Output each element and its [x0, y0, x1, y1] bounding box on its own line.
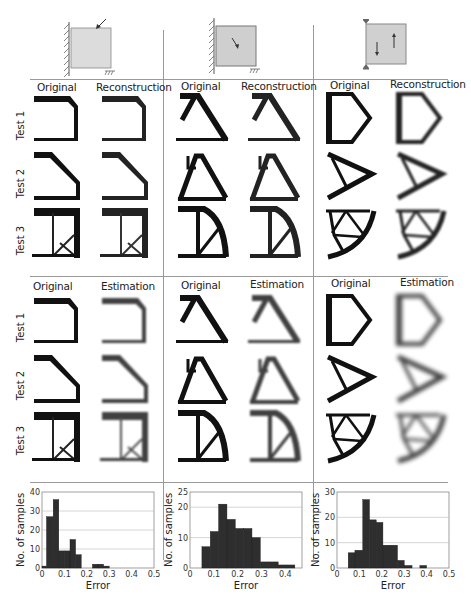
x-tick-label: 0.1	[353, 570, 366, 579]
reconstruction-topology-tile	[392, 90, 448, 146]
histogram-bar	[383, 545, 391, 568]
histogram-bar	[278, 565, 286, 568]
col-header: Reconstruction	[390, 78, 466, 90]
top-divider	[30, 79, 448, 80]
histogram-bar	[376, 522, 383, 568]
x-tick-label: 0.3	[103, 570, 116, 579]
reconstruction-topology-tile	[98, 90, 154, 146]
y-axis-label: No. of samples	[310, 493, 321, 567]
histogram-bar	[260, 562, 268, 568]
col-header: Estimation	[101, 280, 155, 292]
x-tick-label: 0	[39, 570, 44, 579]
histogram-bar	[244, 528, 252, 568]
x-tick-label: 0.4	[420, 570, 433, 579]
histogram-bar	[397, 560, 404, 568]
histogram-bar	[287, 565, 295, 568]
x-tick-label: 0.1	[207, 570, 220, 579]
histogram-1: 01020304000.10.20.30.40.5ErrorNo. of sam…	[0, 480, 160, 603]
estimation-topology-tile	[246, 409, 302, 465]
reconstruction-topology-tile	[98, 205, 154, 261]
estimation-topology-tile	[98, 351, 154, 407]
original-topology-tile	[174, 351, 230, 407]
row-label: Test 3	[15, 221, 26, 261]
y-tick-label: 10	[30, 545, 40, 554]
original-topology-tile	[30, 148, 86, 204]
row-label: Test 2	[15, 164, 26, 204]
original-topology-tile	[30, 409, 86, 465]
x-tick-label: 0.1	[58, 570, 71, 579]
histogram-3: 010203000.10.20.30.40.5ErrorNo. of sampl…	[310, 480, 471, 603]
reconstruction-topology-tile	[246, 148, 302, 204]
histogram-bar	[92, 564, 98, 568]
original-topology-tile	[322, 409, 378, 465]
original-topology-tile	[174, 205, 230, 261]
reconstruction-topology-tile	[98, 148, 154, 204]
original-topology-tile	[322, 205, 378, 261]
estimation-topology-tile	[392, 351, 448, 407]
row-label: Test 3	[15, 421, 26, 461]
estimation-topology-tile	[392, 409, 448, 465]
original-topology-tile	[30, 90, 86, 146]
original-topology-tile	[174, 409, 230, 465]
histogram-bar	[42, 566, 46, 568]
original-topology-tile	[30, 205, 86, 261]
histogram-bar	[227, 519, 235, 568]
x-axis-label: Error	[234, 580, 259, 591]
histogram-bar	[64, 551, 70, 568]
y-tick-label: 25	[178, 488, 188, 497]
histogram-bar	[104, 566, 110, 568]
row-label: Test 1	[15, 106, 26, 146]
histogram-bar	[98, 564, 104, 568]
original-topology-tile	[174, 148, 230, 204]
col-header: Estimation	[400, 276, 454, 288]
estimation-topology-tile	[246, 292, 302, 348]
x-tick-label: 0	[334, 570, 339, 579]
y-tick-label: 40	[30, 488, 40, 497]
col-header: Original	[181, 279, 221, 291]
original-topology-tile	[322, 148, 378, 204]
histogram-bar	[348, 553, 355, 568]
histogram-bar	[391, 545, 398, 568]
reconstruction-topology-tile	[392, 148, 448, 204]
col-header: Original	[33, 280, 73, 292]
histogram-bar	[269, 562, 279, 568]
histogram-bar	[355, 550, 363, 568]
histogram-bar	[46, 517, 53, 568]
row-label: Test 1	[15, 308, 26, 348]
histogram-bar	[53, 500, 59, 568]
histogram-bar	[404, 565, 412, 568]
histogram-bar	[363, 500, 370, 568]
histogram-bar	[59, 551, 65, 568]
histogram-bar	[76, 555, 82, 568]
middle-divider	[30, 276, 448, 277]
histogram-2: 010202500.10.20.30.4ErrorNo. of samples	[155, 480, 315, 603]
row-label: Test 2	[15, 366, 26, 406]
col-header: Estimation	[250, 278, 304, 290]
y-tick-label: 10	[325, 539, 335, 548]
y-tick-label: 20	[30, 526, 40, 535]
x-tick-label: 0.2	[231, 570, 244, 579]
setup-diagram-3	[358, 18, 418, 74]
histogram-bar	[369, 520, 376, 568]
col-header: Original	[331, 277, 371, 289]
y-axis-label: No. of samples	[15, 493, 26, 567]
histogram-bar	[210, 532, 218, 568]
histogram-bar	[219, 504, 227, 568]
x-tick-label: 0.5	[443, 570, 456, 579]
x-tick-label: 0.3	[398, 570, 411, 579]
y-tick-label: 20	[325, 513, 335, 522]
histogram-bar	[235, 528, 243, 568]
estimation-topology-tile	[246, 351, 302, 407]
estimation-topology-tile	[98, 292, 154, 348]
setup-diagram-1	[60, 18, 120, 80]
reconstruction-topology-tile	[246, 90, 302, 146]
x-axis-label: Error	[86, 580, 111, 591]
setup-diagram-2	[205, 16, 265, 78]
y-tick-label: 30	[30, 507, 40, 516]
original-topology-tile	[174, 90, 230, 146]
histogram-bar	[252, 538, 260, 568]
x-tick-label: 0.4	[125, 570, 138, 579]
original-topology-tile	[30, 351, 86, 407]
original-topology-tile	[322, 292, 378, 348]
x-tick-label: 0	[187, 570, 192, 579]
